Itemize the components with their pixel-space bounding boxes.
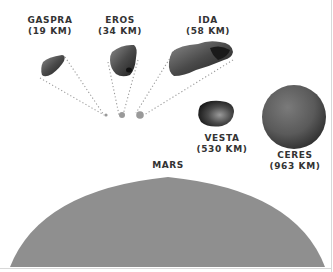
mars-shape bbox=[10, 177, 325, 267]
mars-name: MARS bbox=[143, 160, 193, 171]
ida-size: (58 KM) bbox=[178, 26, 238, 37]
gaspra-asteroid bbox=[41, 55, 64, 76]
ida-asteroid bbox=[169, 41, 233, 76]
frame-border-right bbox=[331, 0, 332, 272]
gaspra-scale-dot bbox=[104, 113, 107, 116]
frame-border-bottom bbox=[0, 268, 331, 269]
illustration bbox=[0, 0, 333, 272]
vesta-size: (530 KM) bbox=[190, 144, 254, 155]
ceres-label: CERES (963 KM) bbox=[262, 150, 328, 172]
eros-label: EROS (34 KM) bbox=[92, 15, 148, 37]
ida-scale-dot bbox=[136, 111, 144, 119]
gaspra-size: (19 KM) bbox=[22, 26, 78, 37]
vesta-asteroid bbox=[198, 101, 234, 127]
eros-scale-dot bbox=[119, 112, 125, 118]
vesta-name: VESTA bbox=[190, 133, 254, 144]
gaspra-name: GASPRA bbox=[22, 15, 78, 26]
eros-asteroid bbox=[110, 45, 137, 76]
eros-name: EROS bbox=[92, 15, 148, 26]
mars-label: MARS bbox=[143, 160, 193, 171]
vesta-label: VESTA (530 KM) bbox=[190, 133, 254, 155]
eros-size: (34 KM) bbox=[92, 26, 148, 37]
ida-label: IDA (58 KM) bbox=[178, 15, 238, 37]
ida-name: IDA bbox=[178, 15, 238, 26]
ceres-name: CERES bbox=[262, 150, 328, 161]
ceres-sphere bbox=[262, 85, 326, 149]
ceres-size: (963 KM) bbox=[262, 161, 328, 172]
gaspra-label: GASPRA (19 KM) bbox=[22, 15, 78, 37]
